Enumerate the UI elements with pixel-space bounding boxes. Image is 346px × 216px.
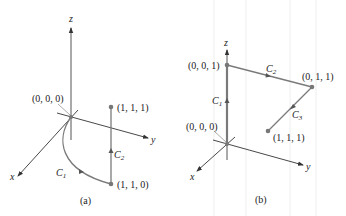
origin-label-a: (0, 0, 0)	[32, 93, 64, 105]
origin-label-b: (0, 0, 0)	[186, 121, 218, 133]
x-axis-label-b: x	[189, 171, 195, 182]
curve-c1-a: C1	[56, 117, 111, 184]
point-011-b	[310, 85, 315, 90]
point-111-a	[109, 105, 114, 110]
y-axis-label-b: y	[305, 161, 311, 172]
caption-a: (a)	[80, 195, 91, 207]
z-axis-label-a: z	[68, 13, 73, 24]
point-111-label-a: (1, 1, 1)	[117, 102, 149, 114]
diagram-canvas: z y x (0, 0, 0) C1 C2 (1, 1, 1)	[0, 0, 346, 216]
caption-b: (b)	[255, 194, 267, 206]
point-001-label-b: (0, 0, 1)	[188, 60, 220, 72]
panel-b: z y x (0, 0, 0) C1 C2	[186, 0, 334, 216]
point-111-label-b: (1, 1, 1)	[273, 132, 305, 144]
c2-label-b: C2	[266, 63, 277, 76]
point-011-label-b: (0, 1, 1)	[302, 71, 334, 83]
point-001-b	[225, 63, 230, 68]
z-axis-label-b: z	[223, 37, 228, 48]
curve-c2-a: C2	[109, 107, 125, 184]
c2-label-a: C2	[114, 149, 125, 162]
y-axis-label-a: y	[150, 134, 156, 145]
panel-a: z y x (0, 0, 0) C1 C2 (1, 1, 1)	[9, 13, 156, 207]
c3-label-b: C3	[292, 109, 303, 122]
x-axis-label-a: x	[9, 171, 15, 182]
curve-c1-b: C1	[212, 65, 230, 144]
x-axis-a: x	[9, 110, 78, 182]
background-guides-b	[214, 0, 316, 216]
point-110-label-a: (1, 1, 0)	[117, 179, 149, 191]
point-110-a	[109, 182, 114, 187]
c1-label-a: C1	[56, 167, 66, 180]
curve-c2-b: C2	[227, 63, 312, 87]
point-111-b	[266, 129, 271, 134]
